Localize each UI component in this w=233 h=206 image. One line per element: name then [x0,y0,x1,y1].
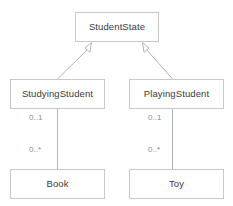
multiplicity-label-studying-book-target: 0..* [29,146,41,154]
class-box-book[interactable]: Book [10,169,105,199]
class-box-playing-student[interactable]: PlayingStudent [129,79,224,109]
multiplicity-label-playing-toy-target: 0..* [148,146,160,154]
class-name-toy: Toy [169,179,184,189]
generalization-playing-student [143,43,173,80]
class-box-student-state[interactable]: StudentState [75,12,159,42]
class-box-studying-student[interactable]: StudyingStudent [10,79,105,109]
class-name-book: Book [46,179,68,189]
generalization-line-playing [146,49,173,79]
generalization-studying-student [58,43,92,80]
uml-class-diagram: StudentState StudyingStudent PlayingStud… [0,0,233,206]
class-name-studying-student: StudyingStudent [22,89,93,99]
class-name-student-state: StudentState [89,22,145,32]
generalization-line-studying [58,49,89,79]
class-name-playing-student: PlayingStudent [144,89,209,99]
class-box-toy[interactable]: Toy [129,169,224,199]
multiplicity-label-playing-toy-source: 0..1 [148,114,161,122]
multiplicity-label-studying-book-source: 0..1 [29,114,42,122]
